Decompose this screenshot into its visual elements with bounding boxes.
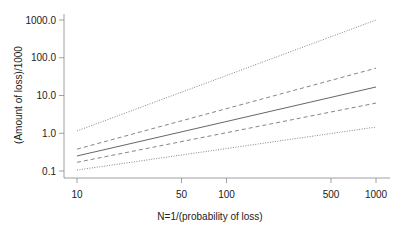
y-tick-label: 10.0 [37,90,57,101]
x-tick-label: 1000 [365,189,388,200]
x-tick-label: 10 [71,189,83,200]
series-line [77,68,376,149]
y-tick-label: 1000.0 [25,15,56,26]
x-tick-label: 50 [176,189,188,200]
y-ticks: 0.11.010.0100.01000.0 [25,15,64,177]
y-tick-label: 100.0 [31,52,56,63]
x-ticks: 10501005001000 [71,178,387,200]
x-axis-label: N=1/(probability of loss) [157,211,262,222]
series-line [77,103,376,162]
x-tick-label: 500 [323,189,340,200]
plot-lines [77,20,376,170]
series-line [77,127,376,170]
series-line [77,20,376,131]
x-tick-label: 100 [218,189,235,200]
chart: 0.11.010.0100.01000.0 10501005001000 N=1… [0,0,405,235]
series-line [77,87,376,156]
y-tick-label: 1.0 [42,128,56,139]
y-tick-label: 0.1 [42,166,56,177]
y-axis-label: (Amount of loss)/1000 [13,46,24,144]
